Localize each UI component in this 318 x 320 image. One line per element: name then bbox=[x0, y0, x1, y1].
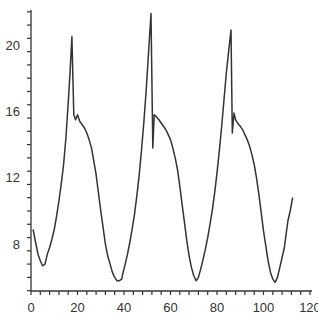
x-tick-labels: 020406080100120 bbox=[27, 300, 318, 315]
data-line bbox=[33, 14, 293, 283]
y-tick-label: 8 bbox=[13, 237, 20, 252]
x-tick-label: 80 bbox=[210, 300, 224, 315]
axes: 020406080100120 8121620 bbox=[6, 10, 318, 315]
x-tick-label: 120 bbox=[299, 300, 318, 315]
y-tick-labels: 8121620 bbox=[6, 38, 20, 252]
y-tick-label: 12 bbox=[6, 170, 20, 185]
x-tick-label: 40 bbox=[117, 300, 131, 315]
x-tick-label: 100 bbox=[253, 300, 275, 315]
x-tick-label: 20 bbox=[70, 300, 84, 315]
x-tick-label: 0 bbox=[27, 300, 34, 315]
x-tick-label: 60 bbox=[163, 300, 177, 315]
y-tick-label: 20 bbox=[6, 38, 20, 53]
line-chart: 020406080100120 8121620 bbox=[0, 0, 318, 320]
y-tick-label: 16 bbox=[6, 104, 20, 119]
